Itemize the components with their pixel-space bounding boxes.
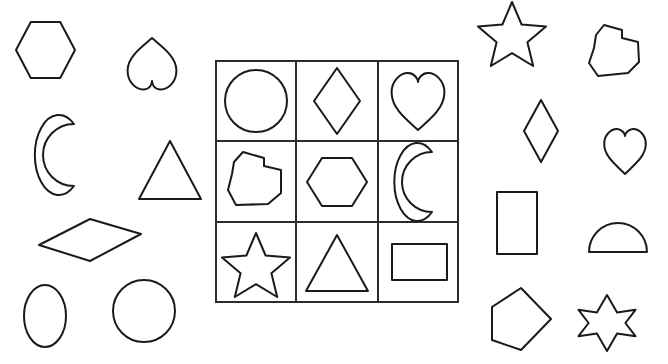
- grid-cell-1-1-hexagon: [307, 158, 367, 206]
- worksheet-canvas: [0, 0, 668, 364]
- shape-diamond-right: [524, 100, 558, 162]
- grid-cell-2-1-triangle: [306, 235, 368, 291]
- shape-pentagon-right: [492, 288, 551, 350]
- shape-five-point-star-right: [478, 2, 546, 66]
- shape-crescent-moon-left: [35, 115, 74, 195]
- shape-circle-left: [113, 280, 175, 342]
- grid-cell-1-0-irregular-polygon: [228, 152, 281, 205]
- grid-cell-0-0-circle: [225, 70, 287, 132]
- grid-cell-0-1-diamond: [314, 68, 360, 134]
- shapes-illustration: [0, 0, 668, 364]
- shape-rectangle-vertical-right: [497, 192, 537, 254]
- shape-grid: [216, 61, 458, 302]
- loose-shapes-left: [16, 22, 201, 347]
- shape-heart-right: [604, 129, 646, 174]
- shape-hexagon-left: [16, 22, 75, 78]
- grid-cell-0-2-heart: [392, 73, 445, 130]
- shape-irregular-polygon-right: [589, 25, 639, 76]
- shape-six-point-star-right: [579, 295, 636, 351]
- grid-border: [216, 61, 458, 302]
- shape-triangle-left: [139, 141, 201, 199]
- shape-diamond-flat-left: [39, 219, 141, 261]
- grid-cell-2-0-five-point-star: [222, 233, 290, 297]
- shape-ellipse-left: [24, 285, 66, 347]
- grid-cell-2-2-rectangle: [392, 244, 447, 280]
- loose-shapes-right: [478, 2, 647, 351]
- shape-semicircle-right: [589, 223, 647, 252]
- grid-cell-1-2-crescent-moon: [394, 143, 432, 221]
- shape-heart-inverted-left: [128, 38, 177, 90]
